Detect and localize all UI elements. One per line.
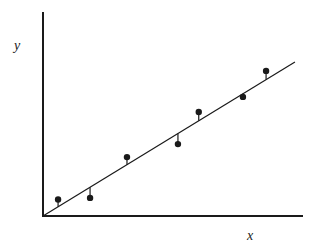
x-axis-label: x (246, 228, 254, 243)
data-point (87, 195, 93, 201)
residual-lines (58, 71, 266, 207)
data-point (196, 109, 202, 115)
data-point (124, 154, 130, 160)
data-point (240, 94, 246, 100)
y-axis-label: y (12, 38, 21, 53)
data-points (55, 68, 269, 203)
regression-line (43, 62, 295, 216)
data-point (263, 68, 269, 74)
data-point (175, 141, 181, 147)
data-point (55, 196, 61, 202)
regression-scatter-chart: y x (0, 0, 317, 247)
